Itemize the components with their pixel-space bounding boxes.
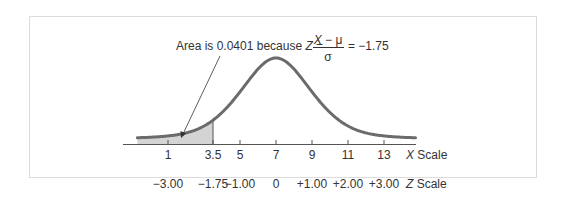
fraction-numerator: X − μ (313, 33, 343, 47)
z-tick-label: −1.00 (225, 177, 256, 191)
z-tick-label: +3.00 (369, 177, 400, 191)
x-tick-label: 7 (273, 148, 280, 162)
normal-curve-chart: 1−3.003.5−1.755−1.00709+1.0011+2.0013+3.… (0, 0, 566, 208)
x-scale-label: X Scale (405, 148, 448, 162)
z-tick-label: −3.00 (153, 177, 184, 191)
z-tick-label: +2.00 (333, 177, 364, 191)
x-tick-label: 13 (377, 148, 391, 162)
annotation-result: = −1.75 (348, 39, 389, 53)
x-tick-label: 1 (165, 148, 172, 162)
fraction-denominator: σ (324, 50, 332, 64)
shaded-tail-area (137, 120, 213, 144)
x-tick-label: 3.5 (205, 148, 222, 162)
x-tick-label: 5 (237, 148, 244, 162)
x-tick-label: 9 (309, 148, 316, 162)
normal-curve (137, 58, 415, 138)
x-tick-label: 11 (342, 148, 355, 162)
z-tick-label: 0 (273, 177, 280, 191)
annotation-pointer-line (183, 56, 220, 134)
annotation-text: Area is 0.0401 because Z = (176, 39, 323, 53)
z-scale-label: Z Scale (405, 177, 447, 191)
z-tick-label: +1.00 (297, 177, 328, 191)
